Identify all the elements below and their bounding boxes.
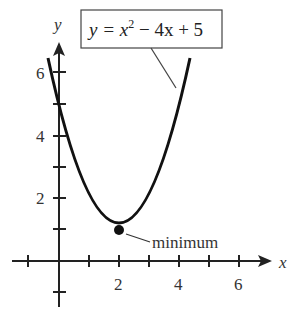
parabola-curve: [48, 58, 190, 223]
y-tick-label-4: 4: [36, 127, 45, 146]
y-tick-label-6: 6: [36, 64, 45, 83]
parabola-chart: 2 4 6 6 4 2 x y minimum y = x2 − 4x + 5: [0, 0, 300, 314]
y-tick-label-2: 2: [36, 189, 45, 208]
y-axis-label: y: [52, 15, 62, 34]
x-tick-label-4: 4: [174, 275, 183, 294]
x-axis-label: x: [278, 253, 287, 272]
x-tick-label-2: 2: [114, 275, 123, 294]
x-tick-label-6: 6: [234, 275, 243, 294]
equation-rhs: − 4x + 5: [134, 19, 203, 40]
equation-lhs: y = x: [87, 19, 129, 40]
minimum-label: minimum: [152, 233, 218, 252]
equation-label: y = x2 − 4x + 5: [87, 17, 203, 40]
equation-leader-line: [151, 48, 176, 88]
minimum-point: [114, 225, 124, 235]
minimum-leader-line: [126, 234, 150, 242]
